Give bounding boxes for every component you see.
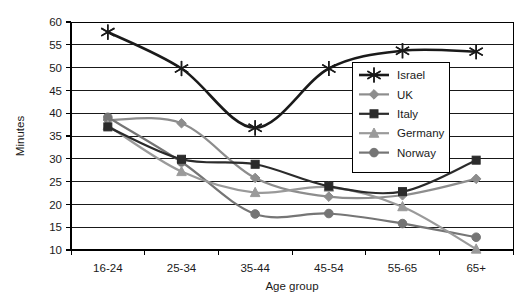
data-point-marker-diamond bbox=[471, 174, 481, 184]
chart-container: 1015202530354045505560 16-2425-3435-4445… bbox=[0, 0, 526, 292]
y-tick-label: 20 bbox=[49, 199, 62, 211]
legend-label: Italy bbox=[397, 108, 418, 120]
data-point-marker-diamond bbox=[324, 192, 334, 202]
y-axis-tick-labels: 1015202530354045505560 bbox=[49, 16, 62, 256]
data-point-marker-square bbox=[399, 188, 407, 196]
x-category-label: 65+ bbox=[466, 262, 486, 274]
data-point-marker-square bbox=[251, 160, 259, 168]
data-point-marker-triangle bbox=[471, 244, 481, 253]
legend-label: Israel bbox=[397, 69, 425, 81]
data-point-marker-circle bbox=[251, 210, 260, 219]
x-category-label: 25-34 bbox=[167, 262, 197, 274]
y-tick-label: 40 bbox=[49, 107, 62, 119]
legend-label: Norway bbox=[397, 147, 436, 159]
y-tick-label: 50 bbox=[49, 62, 62, 74]
data-point-marker-square bbox=[178, 155, 186, 163]
y-tick-label: 25 bbox=[49, 176, 62, 188]
data-point-marker-circle bbox=[370, 148, 379, 157]
legend-label: Germany bbox=[397, 127, 445, 139]
data-point-marker-circle bbox=[325, 209, 334, 218]
y-tick-label: 55 bbox=[49, 39, 62, 51]
y-tick-label: 45 bbox=[49, 85, 62, 97]
data-point-marker-circle bbox=[398, 219, 407, 228]
x-category-label: 45-54 bbox=[314, 262, 344, 274]
chart-legend: IsraelUKItalyGermanyNorway bbox=[352, 62, 449, 172]
y-tick-label: 15 bbox=[49, 221, 62, 233]
data-point-marker-diamond bbox=[177, 118, 187, 128]
y-axis-title: Minutes bbox=[14, 116, 26, 157]
data-point-marker-star bbox=[322, 61, 335, 76]
y-tick-label: 30 bbox=[49, 153, 62, 165]
x-category-label: 55-65 bbox=[388, 262, 417, 274]
y-tick-label: 10 bbox=[49, 244, 62, 256]
data-point-marker-square bbox=[370, 110, 378, 118]
line-chart: 1015202530354045505560 16-2425-3435-4445… bbox=[0, 0, 526, 292]
x-category-label: 35-44 bbox=[240, 262, 270, 274]
data-point-marker-star bbox=[101, 24, 114, 39]
data-point-marker-square bbox=[104, 123, 112, 131]
data-point-marker-star bbox=[175, 61, 188, 76]
y-tick-label: 35 bbox=[49, 130, 62, 142]
legend-label: UK bbox=[397, 89, 413, 101]
data-point-marker-square bbox=[472, 156, 480, 164]
x-axis-title: Age group bbox=[265, 280, 318, 292]
data-point-marker-square bbox=[325, 182, 333, 190]
y-tick-label: 60 bbox=[49, 16, 62, 28]
data-point-marker-circle bbox=[472, 233, 481, 242]
x-axis-category-labels: 16-2425-3435-4445-5455-6565+ bbox=[93, 262, 486, 274]
x-category-label: 16-24 bbox=[93, 262, 123, 274]
